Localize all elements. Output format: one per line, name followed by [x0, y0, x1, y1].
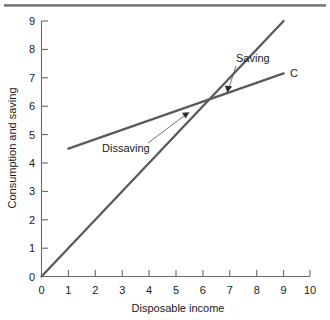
x-tick-label-3: 3 — [119, 284, 125, 296]
y-tick-label-3: 3 — [29, 185, 35, 197]
y-tick-label-7: 7 — [29, 72, 35, 84]
y-tick-label-2: 2 — [29, 214, 35, 226]
dissaving-annotation-label: Dissaving — [102, 142, 150, 154]
consumption-saving-chart: 9 8 7 6 5 4 3 2 1 0 0 1 2 3 4 5 6 7 8 9 … — [0, 0, 330, 320]
curve-label-c: C — [290, 67, 298, 79]
y-tick-label-5: 5 — [29, 129, 35, 141]
x-tick-label-10: 10 — [304, 284, 316, 296]
y-tick-label-4: 4 — [29, 157, 35, 169]
x-tick-label-7: 7 — [227, 284, 233, 296]
x-tick-label-0: 0 — [38, 284, 44, 296]
x-tick-label-1: 1 — [65, 284, 71, 296]
figure-container: 9 8 7 6 5 4 3 2 1 0 0 1 2 3 4 5 6 7 8 9 … — [0, 0, 330, 320]
y-axis-title: Consumption and saving — [6, 87, 18, 208]
saving-annotation-label: Saving — [236, 52, 270, 64]
y-tick-label-6: 6 — [29, 100, 35, 112]
x-axis — [42, 270, 311, 277]
x-tick-label-4: 4 — [146, 284, 152, 296]
x-tick-label-9: 9 — [281, 284, 287, 296]
series-consumption-schedule — [68, 73, 283, 148]
dissaving-arrow-icon — [182, 112, 189, 118]
y-tick-label-9: 9 — [29, 15, 35, 27]
x-tick-label-6: 6 — [200, 284, 206, 296]
y-axis — [42, 21, 49, 277]
y-tick-label-8: 8 — [29, 43, 35, 55]
x-tick-label-5: 5 — [173, 284, 179, 296]
y-tick-label-0: 0 — [29, 271, 35, 283]
x-tick-label-8: 8 — [254, 284, 260, 296]
y-tick-label-1: 1 — [29, 242, 35, 254]
x-axis-title: Disposable income — [132, 302, 225, 314]
x-tick-label-2: 2 — [92, 284, 98, 296]
